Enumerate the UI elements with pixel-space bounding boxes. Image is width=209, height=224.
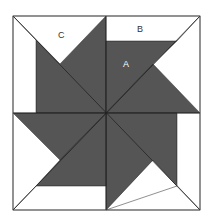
label-C: C bbox=[58, 30, 65, 40]
label-A: A bbox=[123, 59, 129, 69]
quilt-block-diagram: C B A bbox=[0, 0, 209, 224]
label-B: B bbox=[137, 24, 143, 34]
